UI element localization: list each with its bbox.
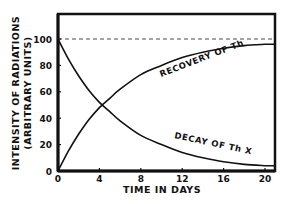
x-tick-label: 20 <box>259 174 272 184</box>
x-tick-label: 0 <box>55 174 61 184</box>
chart: 048121620 020406080100 RECOVERY OF Th DE… <box>0 0 289 204</box>
y-axis-subtitle: (ARBITRARY UNITS) <box>22 36 33 149</box>
y-axis-title: INTENSITY OF RADIATIONS <box>10 16 21 170</box>
y-tick-label: 100 <box>33 35 52 45</box>
x-axis-title: TIME IN DAYS <box>123 184 201 195</box>
y-tick-label: 40 <box>39 114 52 124</box>
decay-annotation: DECAY OF Th X <box>174 130 253 156</box>
recovery-annotation: RECOVERY OF Th <box>158 37 245 78</box>
y-tick-label: 80 <box>39 61 52 71</box>
x-tick-label: 4 <box>96 174 102 184</box>
y-tick-label: 0 <box>46 167 52 177</box>
y-tick-label: 60 <box>39 87 52 97</box>
x-tick-label: 8 <box>138 174 144 184</box>
y-tick-label: 20 <box>39 140 52 150</box>
x-tick-label: 12 <box>176 174 189 184</box>
x-tick-label: 16 <box>217 174 230 184</box>
